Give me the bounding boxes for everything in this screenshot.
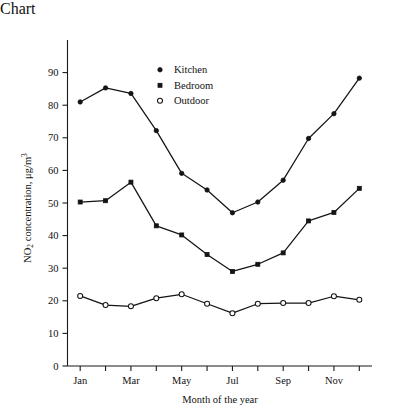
data-point-outdoor-feb [103,303,108,308]
data-point-outdoor-oct [306,301,311,306]
data-point-bedroom-apr [154,224,158,228]
data-point-outdoor-apr [154,296,159,301]
x-tick-label: Sep [275,375,291,386]
y-tick-label: 70 [48,132,59,143]
data-point-bedroom-oct [307,219,311,223]
data-point-bedroom-sep [281,251,285,255]
y-tick-label: 40 [48,230,59,241]
data-point-outdoor-jul [230,311,235,316]
y-tick-label: 60 [48,165,59,176]
data-point-kitchen-feb [103,86,107,90]
y-axis-title-mid: concentration, μg/m [22,157,33,244]
legend-marker-kitchen [158,68,162,72]
data-point-bedroom-may [180,233,184,237]
data-point-kitchen-sep [281,178,285,182]
legend-label-outdoor: Outdoor [174,95,210,106]
data-point-kitchen-oct [306,136,310,140]
data-point-outdoor-jun [205,301,210,306]
no2-concentration-line-chart: 0102030405060708090 JanMarMayJulSepNov K… [0,18,393,409]
data-point-outdoor-dec [357,297,362,302]
y-tick-label: 0 [53,361,58,372]
data-point-bedroom-feb [104,199,108,203]
data-point-outdoor-nov [331,294,336,299]
x-axis-title: Month of the year [182,394,258,405]
y-tick-label: 30 [48,263,59,274]
data-point-kitchen-may [179,171,183,175]
data-point-kitchen-apr [154,128,158,132]
data-point-kitchen-jul [230,211,234,215]
data-point-kitchen-jun [205,188,209,192]
x-tick-label: Nov [325,375,344,386]
data-point-bedroom-jan [78,200,82,204]
data-point-outdoor-may [179,292,184,297]
chart-figure: 0102030405060708090 JanMarMayJulSepNov K… [0,18,393,409]
y-tick-label: 80 [48,100,59,111]
y-axis-title-superscript: 3 [20,153,29,157]
data-point-kitchen-dec [357,76,361,80]
legend-marker-bedroom [158,83,162,87]
data-point-bedroom-jun [205,253,209,257]
data-point-outdoor-jan [78,293,83,298]
legend-label-bedroom: Bedroom [174,80,213,91]
y-axis-title-prefix: NO [22,247,33,263]
data-point-kitchen-mar [129,91,133,95]
legend-marker-outdoor [158,98,163,103]
x-tick-label: Mar [122,375,140,386]
y-tick-label: 50 [48,198,59,209]
data-point-outdoor-sep [281,301,286,306]
data-point-bedroom-jul [230,269,234,273]
x-tick-label: May [172,375,192,386]
y-tick-label: 20 [48,295,59,306]
data-point-kitchen-jan [78,100,82,104]
data-point-bedroom-dec [357,186,361,190]
data-point-outdoor-aug [255,301,260,306]
x-tick-label: Jul [226,375,238,386]
y-tick-label: 90 [48,67,59,78]
data-point-kitchen-aug [256,200,260,204]
data-point-bedroom-aug [256,262,260,266]
data-point-kitchen-nov [332,111,336,115]
x-tick-label: Jan [73,375,88,386]
y-tick-label: 10 [48,328,59,339]
data-point-outdoor-mar [128,304,133,309]
data-point-bedroom-nov [332,210,336,214]
data-point-bedroom-mar [129,180,133,184]
legend-label-kitchen: Kitchen [174,64,208,75]
